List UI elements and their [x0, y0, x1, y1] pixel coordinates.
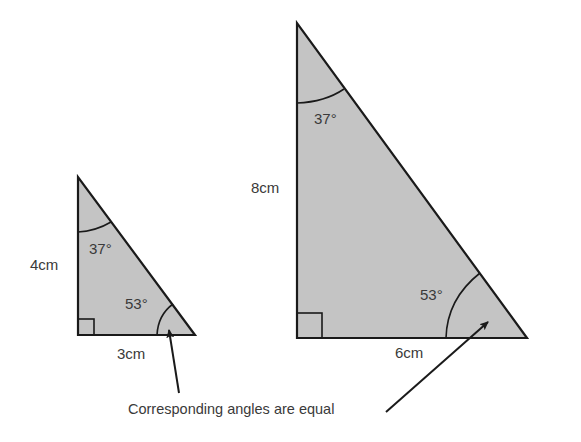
small-base-label: 3cm [117, 345, 145, 362]
large-top-angle-label: 37° [314, 110, 337, 127]
small-bottom-angle-label: 53° [125, 295, 148, 312]
large-triangle: 8cm 6cm 37° 53° [251, 23, 527, 361]
large-height-label: 8cm [251, 179, 279, 196]
small-top-angle-label: 37° [89, 240, 112, 257]
large-bottom-angle-label: 53° [420, 286, 443, 303]
arrow-to-small-angle [169, 330, 179, 393]
small-height-label: 4cm [30, 256, 58, 273]
large-base-label: 6cm [395, 344, 423, 361]
similar-triangles-diagram: 4cm 3cm 37° 53° 8cm 6cm 37° 53° Correspo… [0, 0, 581, 442]
caption: Corresponding angles are equal [128, 401, 334, 417]
